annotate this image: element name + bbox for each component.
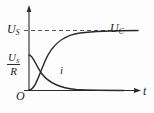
- rc-charging-curve-figure: US US R UC i O t: [0, 0, 154, 113]
- fraction-denominator: R: [7, 66, 20, 78]
- label-us-over-r-axis-value: US R: [7, 52, 20, 77]
- label-origin: O: [16, 90, 25, 102]
- current-curve: [29, 55, 124, 91]
- label-t-axis: t: [143, 85, 146, 97]
- fraction-numerator: US: [7, 52, 20, 64]
- label-us-axis-value: US: [7, 23, 19, 35]
- y-axis: [27, 5, 32, 91]
- label-capacitor-voltage-curve: UC: [110, 22, 124, 34]
- label-current-curve: i: [60, 65, 63, 76]
- capacitor-voltage-curve: [29, 31, 138, 91]
